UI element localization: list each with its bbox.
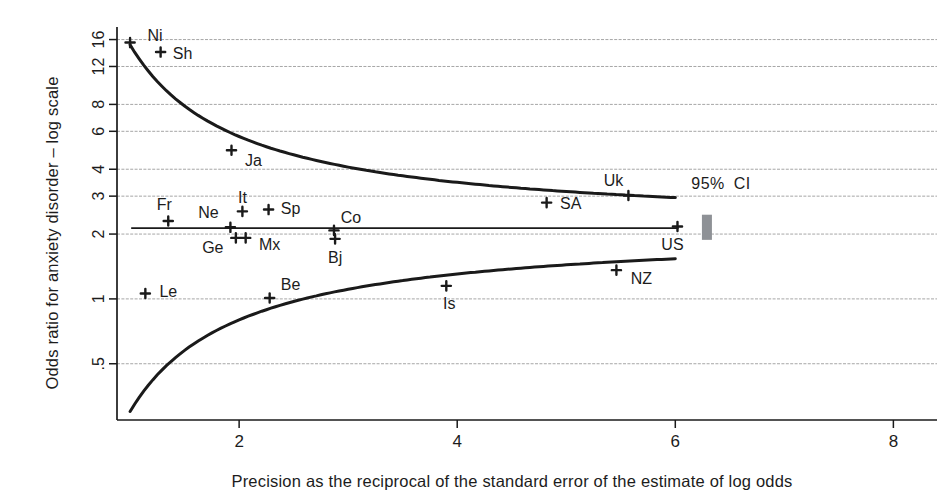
data-point-It <box>238 207 247 216</box>
funnel-upper-curve <box>130 45 675 198</box>
point-label-Fr: Fr <box>157 196 173 213</box>
x-axis-title: Precision as the reciprocal of the stand… <box>231 472 792 491</box>
point-label-US: US <box>661 236 683 253</box>
y-tick-label-8: 8 <box>91 100 108 109</box>
point-label-Uk: Uk <box>604 172 625 189</box>
y-tick-label-16: 16 <box>91 31 108 49</box>
data-point-Uk <box>624 191 633 200</box>
point-label-Le: Le <box>159 283 177 300</box>
data-point-Is <box>442 281 451 290</box>
data-point-Ja <box>227 146 236 155</box>
funnel-plot-figure: 1612864321.52468NiShJaFrNeItSpGeMxCoBjSA… <box>0 0 944 499</box>
point-label-Sh: Sh <box>173 45 193 62</box>
y-tick-label-.5: .5 <box>91 357 108 370</box>
point-label-Bj: Bj <box>328 249 342 266</box>
y-tick-label-4: 4 <box>91 165 108 174</box>
point-label-Mx: Mx <box>259 236 280 253</box>
point-label-Ni: Ni <box>148 27 163 44</box>
ci-legend-label: 95% CI <box>691 175 750 193</box>
y-tick-label-2: 2 <box>91 230 108 239</box>
data-point-Bj <box>330 234 339 243</box>
point-label-Ja: Ja <box>245 152 262 169</box>
x-tick-label-2: 2 <box>234 432 243 451</box>
point-label-It: It <box>238 189 247 206</box>
data-point-Sp <box>264 205 273 214</box>
y-axis-title: Odds ratio for anxiety disorder – log sc… <box>43 76 62 389</box>
funnel-lower-curve <box>130 259 675 412</box>
point-label-Ne: Ne <box>198 204 219 221</box>
funnel-plot-canvas: 1612864321.52468NiShJaFrNeItSpGeMxCoBjSA… <box>0 0 944 499</box>
data-point-SA <box>542 198 551 207</box>
ci-bar <box>702 215 712 240</box>
data-point-Le <box>141 289 150 298</box>
data-point-NZ <box>612 266 621 275</box>
point-label-Ge: Ge <box>202 239 223 256</box>
point-label-Is: Is <box>443 295 455 312</box>
point-label-SA: SA <box>560 195 582 212</box>
data-point-US <box>673 222 682 231</box>
y-tick-label-12: 12 <box>91 57 108 75</box>
point-label-NZ: NZ <box>631 270 653 287</box>
point-label-Be: Be <box>281 276 301 293</box>
data-point-Sh <box>156 47 165 56</box>
y-tick-label-1: 1 <box>91 294 108 303</box>
point-label-Co: Co <box>341 209 362 226</box>
y-tick-label-3: 3 <box>91 192 108 201</box>
data-point-Fr <box>164 216 173 225</box>
data-point-Be <box>265 293 274 302</box>
data-point-Ne <box>226 223 235 232</box>
x-tick-label-8: 8 <box>889 432 898 451</box>
x-tick-label-4: 4 <box>452 432 461 451</box>
point-label-Sp: Sp <box>281 200 301 217</box>
x-tick-label-6: 6 <box>671 432 680 451</box>
data-point-Mx <box>241 233 250 242</box>
y-tick-label-6: 6 <box>91 127 108 136</box>
data-point-Ge <box>231 233 240 242</box>
